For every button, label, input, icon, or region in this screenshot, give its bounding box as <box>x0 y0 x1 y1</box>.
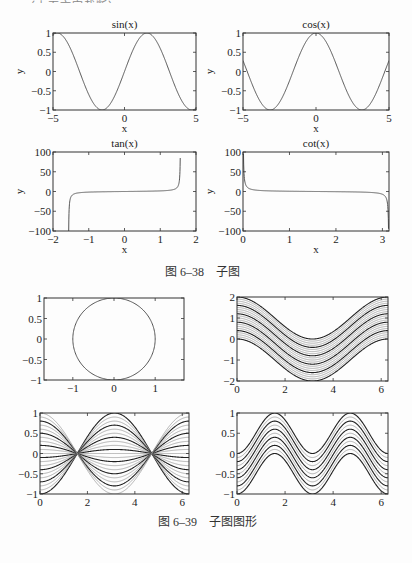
subplot-tan: −2−1012100500−50−100tan(x)xy <box>13 137 199 255</box>
y-tick-label: 1 <box>46 27 52 39</box>
figure-canvas: −50510.50−0.5−1sin(x)xy−50510.50−0.5−1co… <box>0 0 412 563</box>
y-tick-label: 0 <box>33 448 39 460</box>
y-tick-label: 1 <box>37 292 43 304</box>
y-tick-label: −2 <box>223 375 235 387</box>
x-tick-label: 4 <box>330 496 336 508</box>
subplot-title: tan(x) <box>111 137 138 150</box>
data-line <box>243 154 388 229</box>
y-tick-label: −100 <box>28 225 51 237</box>
y-tick-label: 100 <box>35 146 52 158</box>
subplot-scaled-abs-sin: 024610.50−0.5−1 <box>215 407 388 508</box>
y-tick-label: 1 <box>33 407 39 419</box>
x-tick-label: 4 <box>132 496 138 508</box>
plot-area <box>40 413 189 494</box>
x-tick-label: 0 <box>37 496 43 508</box>
plot-area <box>243 154 388 229</box>
x-tick-label: 0 <box>234 383 240 395</box>
y-tick-label: −1 <box>39 104 51 116</box>
x-tick-label: 2 <box>282 496 288 508</box>
y-tick-label: 1 <box>230 407 236 419</box>
axes-frame <box>44 298 184 380</box>
data-line <box>53 33 196 110</box>
data-line <box>69 158 181 231</box>
x-tick-label: 4 <box>330 383 336 395</box>
y-tick-label: 100 <box>225 146 242 158</box>
x-tick-label: 2 <box>193 233 199 245</box>
y-tick-label: −1 <box>223 488 235 500</box>
figure-caption-6-39: 图 6–39 子图图形 <box>158 512 257 530</box>
y-tick-label: −1 <box>229 104 241 116</box>
subplot-cot: 0123100500−50−100cot(x)xy <box>203 137 389 255</box>
y-tick-label: −1 <box>26 488 38 500</box>
x-tick-label: 5 <box>193 112 199 124</box>
y-tick-label: 0.5 <box>221 427 235 439</box>
y-tick-label: −0.5 <box>221 85 241 97</box>
y-tick-label: 0 <box>236 66 242 78</box>
circle-line <box>73 298 155 380</box>
plot-area <box>73 298 155 380</box>
x-tick-label: 0 <box>111 382 117 394</box>
plot-area <box>237 297 388 381</box>
subplot-title: cot(x) <box>303 137 330 150</box>
x-tick-label: 2 <box>85 496 91 508</box>
x-tick-label: 2 <box>333 233 339 245</box>
x-tick-label: 6 <box>180 496 186 508</box>
x-axis-label: x <box>122 243 128 255</box>
data-line <box>243 33 389 110</box>
x-tick-label: −1 <box>83 233 95 245</box>
y-tick-label: 0 <box>46 66 52 78</box>
y-tick-label: −50 <box>224 205 242 217</box>
y-axis-label: y <box>13 68 25 74</box>
y-tick-label: 0.5 <box>28 313 42 325</box>
plot-area <box>69 158 181 231</box>
x-tick-label: 3 <box>380 233 386 245</box>
x-tick-label: 2 <box>282 383 288 395</box>
x-tick-label: 1 <box>158 233 164 245</box>
subplot-title: cos(x) <box>302 18 330 31</box>
y-axis-label: y <box>13 188 25 194</box>
y-tick-label: 50 <box>40 166 52 178</box>
figure-caption-6-38: 图 6–38 子图 <box>165 262 240 280</box>
y-tick-label: 0 <box>236 186 242 198</box>
y-tick-label: −50 <box>34 205 52 217</box>
y-tick-label: 0 <box>37 333 43 345</box>
x-axis-label: x <box>313 122 319 134</box>
plot-area <box>243 33 389 110</box>
y-tick-label: 0 <box>46 186 52 198</box>
x-tick-label: 0 <box>234 496 240 508</box>
y-tick-label: 0.5 <box>24 427 38 439</box>
x-tick-label: 1 <box>152 382 158 394</box>
x-axis-label: x <box>313 243 319 255</box>
subplot-circle: −10110.50−0.5−1 <box>22 292 184 394</box>
subplot-scaled-cos: 024610.50−0.5−1 <box>18 407 189 508</box>
y-tick-label: −0.5 <box>215 468 235 480</box>
y-tick-label: 0 <box>230 333 236 345</box>
y-tick-label: 0.5 <box>37 46 51 58</box>
x-tick-label: 6 <box>378 383 384 395</box>
y-tick-label: 1 <box>236 27 242 39</box>
plot-area <box>53 33 196 110</box>
y-tick-label: 50 <box>230 166 242 178</box>
y-tick-label: 1 <box>230 312 236 324</box>
y-tick-label: 2 <box>230 291 236 303</box>
axes-frame <box>243 33 389 110</box>
y-tick-label: 0.5 <box>227 46 241 58</box>
subplot-sin: −50510.50−0.5−1sin(x)xy <box>13 18 199 134</box>
subplot-title: sin(x) <box>112 18 138 31</box>
x-tick-label: 0 <box>240 233 246 245</box>
x-tick-label: −1 <box>67 382 79 394</box>
y-axis-label: y <box>203 188 215 194</box>
x-tick-label: 5 <box>386 112 392 124</box>
y-tick-label: −1 <box>223 354 235 366</box>
y-tick-label: −100 <box>218 225 241 237</box>
x-tick-label: 6 <box>378 496 384 508</box>
y-tick-label: 0 <box>230 448 236 460</box>
y-tick-label: −0.5 <box>22 354 42 366</box>
y-tick-label: −1 <box>30 374 42 386</box>
x-axis-label: x <box>122 122 128 134</box>
subplot-cos: −50510.50−0.5−1cos(x)xy <box>203 18 392 134</box>
subplot-shifted-cos: 0246210−1−2 <box>223 291 388 395</box>
y-tick-label: −0.5 <box>18 468 38 480</box>
y-axis-label: y <box>203 68 215 74</box>
y-tick-label: −0.5 <box>31 85 51 97</box>
